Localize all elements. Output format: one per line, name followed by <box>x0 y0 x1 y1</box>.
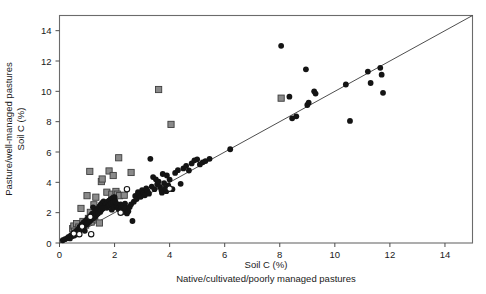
data-point-square <box>96 220 102 226</box>
data-point-open-circle <box>167 186 172 191</box>
data-point-filled-circle <box>380 90 386 96</box>
data-point-filled-circle <box>207 156 213 162</box>
data-point-filled-circle <box>175 167 181 173</box>
data-point-filled-circle <box>146 191 152 197</box>
data-point-filled-circle <box>313 91 319 97</box>
y-tick-label: 6 <box>46 147 51 158</box>
data-point-square <box>84 193 90 199</box>
scatter-plot-figure: 02468101214 02468101214 Soil C (%) Nativ… <box>0 0 486 294</box>
data-point-filled-circle <box>130 218 136 224</box>
x-tick-label: 14 <box>440 249 451 260</box>
data-point-square <box>78 205 84 211</box>
y-tick-label: 2 <box>46 207 51 218</box>
data-point-open-circle <box>118 210 123 215</box>
y-tick-label: 0 <box>46 238 51 249</box>
data-point-square <box>168 121 174 127</box>
x-tick-label: 0 <box>57 249 62 260</box>
plot-canvas: 02468101214 02468101214 Soil C (%) Nativ… <box>0 0 486 294</box>
data-point-filled-circle <box>303 66 309 72</box>
data-point-filled-circle <box>287 94 293 100</box>
data-point-filled-circle <box>306 100 312 106</box>
data-point-square <box>128 169 134 175</box>
data-point-open-circle <box>71 231 76 236</box>
x-axis-title-line2: Native/cultivated/poorly managed pasture… <box>176 273 356 284</box>
y-axis-title-line2: Pasture/well-managed pastures <box>3 62 14 196</box>
data-point-filled-circle <box>293 113 299 119</box>
data-point-square <box>156 86 162 92</box>
data-point-open-circle <box>79 224 84 229</box>
data-point-filled-circle <box>377 65 383 71</box>
data-point-filled-circle <box>365 69 371 75</box>
x-axis-title-line1: Soil C (%) <box>245 259 288 270</box>
data-point-filled-circle <box>167 177 173 183</box>
data-point-filled-circle <box>194 156 200 162</box>
data-point-filled-circle <box>147 156 153 162</box>
y-tick-label: 12 <box>41 56 52 67</box>
y-axis-title-line1: Soil C (%) <box>15 108 26 151</box>
data-point-filled-circle <box>278 43 284 49</box>
x-tick-label: 6 <box>222 249 227 260</box>
y-tick-label: 8 <box>46 116 51 127</box>
y-tick-label: 14 <box>41 25 52 36</box>
data-point-square <box>110 172 116 178</box>
data-point-square <box>93 194 99 200</box>
data-point-filled-circle <box>152 186 158 192</box>
data-point-square <box>116 155 122 161</box>
data-point-open-circle <box>88 214 93 219</box>
figure-background <box>0 0 486 294</box>
data-point-filled-circle <box>379 72 385 78</box>
data-point-filled-circle <box>343 82 349 88</box>
x-tick-label: 4 <box>167 249 172 260</box>
data-point-open-circle <box>77 232 82 237</box>
x-tick-label: 2 <box>112 249 117 260</box>
data-point-filled-circle <box>178 181 184 187</box>
data-point-filled-circle <box>227 146 233 152</box>
data-point-filled-circle <box>347 118 353 124</box>
data-point-filled-circle <box>186 168 192 174</box>
data-point-open-circle <box>124 186 129 191</box>
data-point-square <box>87 168 93 174</box>
y-tick-label: 10 <box>41 86 52 97</box>
x-tick-label: 12 <box>385 249 396 260</box>
data-point-filled-circle <box>156 179 162 185</box>
data-point-square <box>278 95 284 101</box>
x-tick-label: 10 <box>330 249 341 260</box>
data-point-square <box>99 176 105 182</box>
data-point-square <box>121 192 127 198</box>
data-point-open-circle <box>88 232 93 237</box>
data-point-filled-circle <box>368 80 374 86</box>
y-tick-label: 4 <box>46 177 51 188</box>
